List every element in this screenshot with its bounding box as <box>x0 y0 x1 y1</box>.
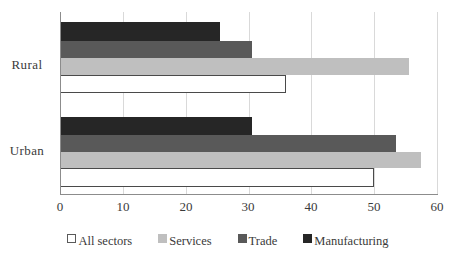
bar-urban-manufacturing[interactable] <box>60 117 252 135</box>
legend-label-allsectors: All sectors <box>78 235 132 248</box>
legend-label-manufacturing: Manufacturing <box>314 235 388 248</box>
bar-rural-manufacturing[interactable] <box>60 22 220 41</box>
legend-swatch-allsectors-icon <box>67 234 76 243</box>
bar-rural-services[interactable] <box>60 58 409 75</box>
legend-swatch-services-icon <box>158 234 167 243</box>
legend-label-services: Services <box>169 235 211 248</box>
legend-label-trade: Trade <box>249 235 278 248</box>
legend-item-trade[interactable]: Trade <box>238 232 278 245</box>
bar-chart: RuralUrban 0102030405060 All sectorsServ… <box>0 0 456 268</box>
y-axis-line <box>60 12 61 194</box>
x-tick-label-30: 30 <box>233 199 263 215</box>
bar-urban-trade[interactable] <box>60 135 396 152</box>
legend-swatch-manufacturing-icon <box>303 234 312 243</box>
legend-item-manufacturing[interactable]: Manufacturing <box>303 232 388 245</box>
legend-item-allsectors[interactable]: All sectors <box>67 232 132 245</box>
y-axis-label-rural: Rural <box>0 57 54 73</box>
x-tick-label-60: 60 <box>422 199 452 215</box>
x-tick-label-0: 0 <box>45 199 75 215</box>
bar-rural-trade[interactable] <box>60 41 252 58</box>
x-axis-line <box>60 194 438 195</box>
bar-rural-allsectors[interactable] <box>60 75 286 93</box>
x-tick-label-10: 10 <box>108 199 138 215</box>
x-tick-label-40: 40 <box>296 199 326 215</box>
bar-urban-allsectors[interactable] <box>60 168 374 187</box>
legend-item-services[interactable]: Services <box>158 232 211 245</box>
chart-legend: All sectorsServicesTradeManufacturing <box>0 232 456 245</box>
legend-swatch-trade-icon <box>238 234 247 243</box>
x-tick-label-20: 20 <box>171 199 201 215</box>
gridline-60 <box>437 12 438 194</box>
plot-area <box>60 12 437 194</box>
x-tick-label-50: 50 <box>359 199 389 215</box>
y-axis-label-urban: Urban <box>0 143 54 159</box>
bar-urban-services[interactable] <box>60 152 421 168</box>
